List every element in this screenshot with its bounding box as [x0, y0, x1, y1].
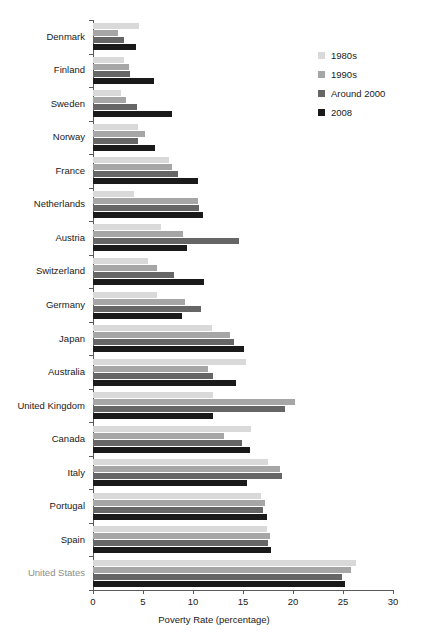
category-tick — [89, 121, 93, 122]
bar-row — [93, 191, 393, 197]
bar-row — [93, 526, 393, 532]
bar-1980s — [93, 258, 148, 264]
bar-1990s — [93, 64, 129, 70]
bar-row — [93, 198, 393, 204]
bar-row — [93, 164, 393, 170]
bar-row — [93, 306, 393, 312]
category-tick — [89, 389, 93, 390]
category-tick — [89, 54, 93, 55]
x-axis-tick — [293, 590, 294, 594]
bar-around-2000 — [93, 104, 137, 110]
bar-row — [93, 178, 393, 184]
bar-row — [93, 413, 393, 419]
country-group: Portugal — [93, 493, 393, 520]
bar-around-2000 — [93, 406, 285, 412]
legend-item[interactable]: 1980s — [318, 46, 385, 65]
bar-1990s — [93, 366, 208, 372]
bar-1990s — [93, 231, 183, 237]
x-axis-tick-label: 30 — [388, 596, 399, 607]
x-axis-tick-label: 5 — [140, 596, 145, 607]
bar-row — [93, 392, 393, 398]
bar-1980s — [93, 426, 251, 432]
bar-row — [93, 292, 393, 298]
bar-2008 — [93, 413, 213, 419]
bar-1980s — [93, 526, 267, 532]
category-label: United Kingdom — [17, 401, 85, 411]
bar-1990s — [93, 265, 157, 271]
bar-row — [93, 399, 393, 405]
country-group: Canada — [93, 426, 393, 453]
category-label: Japan — [59, 334, 85, 344]
bar-1980s — [93, 493, 261, 499]
bar-around-2000 — [93, 540, 268, 546]
legend-label: 2008 — [331, 107, 352, 118]
category-tick — [89, 255, 93, 256]
bar-2008 — [93, 313, 182, 319]
category-tick — [89, 87, 93, 88]
bar-row — [93, 37, 393, 43]
bar-row — [93, 299, 393, 305]
bar-2008 — [93, 111, 172, 117]
bar-row — [93, 426, 393, 432]
category-tick — [89, 422, 93, 423]
bar-1990s — [93, 567, 351, 573]
bar-row — [93, 433, 393, 439]
country-group: Norway — [93, 124, 393, 151]
bar-row — [93, 124, 393, 130]
bar-around-2000 — [93, 373, 213, 379]
bar-row — [93, 205, 393, 211]
country-group: France — [93, 157, 393, 184]
x-axis-title: Poverty Rate (percentage) — [0, 614, 428, 625]
bar-row — [93, 547, 393, 553]
legend-item[interactable]: Around 2000 — [318, 84, 385, 103]
bar-around-2000 — [93, 272, 174, 278]
bar-row — [93, 313, 393, 319]
bar-row — [93, 265, 393, 271]
bar-around-2000 — [93, 339, 234, 345]
bar-2008 — [93, 44, 136, 50]
bar-row — [93, 325, 393, 331]
x-axis-tick — [243, 590, 244, 594]
legend-label: 1990s — [331, 69, 357, 80]
category-tick — [89, 154, 93, 155]
category-label: Denmark — [46, 32, 85, 42]
bar-1980s — [93, 23, 139, 29]
bar-1980s — [93, 90, 121, 96]
bar-row — [93, 131, 393, 137]
bar-1980s — [93, 560, 356, 566]
country-group: Italy — [93, 459, 393, 486]
country-group: United States — [93, 560, 393, 587]
bar-row — [93, 157, 393, 163]
bar-around-2000 — [93, 171, 178, 177]
bar-row — [93, 272, 393, 278]
bar-row — [93, 238, 393, 244]
bar-1990s — [93, 299, 185, 305]
bar-1980s — [93, 459, 268, 465]
x-axis-tick-label: 20 — [288, 596, 299, 607]
category-tick — [89, 355, 93, 356]
legend-item[interactable]: 2008 — [318, 103, 385, 122]
bar-row — [93, 447, 393, 453]
legend-swatch-icon — [318, 90, 325, 97]
category-label: Netherlands — [34, 199, 85, 209]
category-label: Finland — [54, 65, 85, 75]
x-axis-tick-label: 25 — [338, 596, 349, 607]
bar-1990s — [93, 131, 145, 137]
x-axis-tick-label: 10 — [188, 596, 199, 607]
bar-row — [93, 480, 393, 486]
bar-row — [93, 258, 393, 264]
bar-1980s — [93, 191, 134, 197]
bar-2008 — [93, 480, 247, 486]
category-tick — [89, 489, 93, 490]
bar-row — [93, 507, 393, 513]
bar-2008 — [93, 514, 267, 520]
bar-around-2000 — [93, 138, 138, 144]
bar-row — [93, 346, 393, 352]
bar-row — [93, 231, 393, 237]
category-label: Canada — [52, 434, 85, 444]
bar-1980s — [93, 157, 169, 163]
country-group: Japan — [93, 325, 393, 352]
legend-item[interactable]: 1990s — [318, 65, 385, 84]
category-label: Switzerland — [36, 266, 85, 276]
bar-1980s — [93, 359, 246, 365]
